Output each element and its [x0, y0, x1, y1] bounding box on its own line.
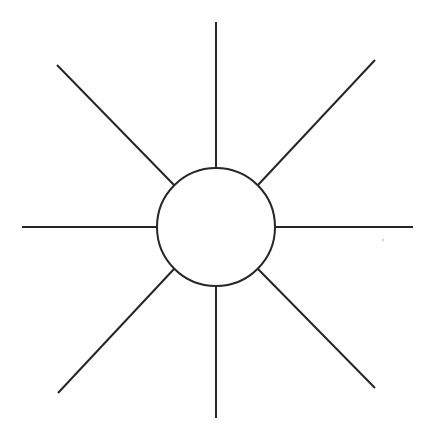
central-circle [157, 168, 275, 286]
ray-northwest [57, 65, 174, 185]
ray-northeast [258, 60, 375, 185]
ray-group [22, 22, 413, 418]
ray-southwest [58, 269, 174, 393]
sun-burst-figure [0, 0, 434, 441]
diagram-canvas [0, 0, 434, 441]
paper-speck-artifact [382, 239, 385, 242]
ray-southeast [258, 269, 375, 388]
